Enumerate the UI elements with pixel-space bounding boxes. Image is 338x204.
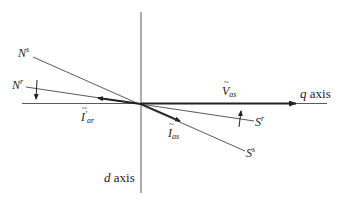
label-sr: Sr [255, 114, 265, 129]
label-ss: Ss [246, 145, 255, 160]
label-v-as: ~ Vas [222, 77, 236, 99]
label-nr: Nr [11, 77, 24, 92]
label-q-axis: q axis [300, 86, 331, 101]
label-i-as: ~ Ias [167, 119, 179, 141]
label-ns: Ns [17, 45, 29, 60]
label-i-ar: ~ I′ar [80, 103, 95, 125]
diagram-svg: Ns Nr Sr Ss ~ Vas ~ Ias ~ [0, 0, 338, 204]
svg-text:Vas: Vas [222, 84, 236, 99]
i-as-phasor [141, 104, 180, 121]
nr-rotation-arrow [36, 80, 37, 99]
label-d-axis: d axis [104, 170, 135, 185]
phasor-diagram: Ns Nr Sr Ss ~ Vas ~ Ias ~ [0, 0, 338, 204]
svg-text:I′ar: I′ar [80, 109, 95, 125]
